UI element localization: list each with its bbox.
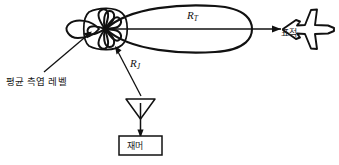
sidelobe-leader-arrow xyxy=(44,31,92,72)
jammer-antenna xyxy=(126,99,155,138)
boresight-arrow xyxy=(106,26,281,33)
range-jammer-label: RJ xyxy=(130,57,140,71)
target-label: 표적 xyxy=(281,26,297,39)
range-target-symbol: R xyxy=(187,9,194,21)
average-sidelobe-level-label: 평균 측엽 레벨 xyxy=(6,74,67,88)
range-target-label: RT xyxy=(187,9,198,23)
range-jammer-subscript: J xyxy=(137,62,140,71)
range-jammer-symbol: R xyxy=(130,57,137,69)
range-target-subscript: T xyxy=(194,14,198,23)
back-lobe xyxy=(67,21,99,38)
jammer-label: 재머 xyxy=(127,139,143,152)
diagram-canvas: 평균 측엽 레벨 표적 재머 RT RJ xyxy=(0,0,339,165)
jammer-path-arrow xyxy=(115,46,141,96)
